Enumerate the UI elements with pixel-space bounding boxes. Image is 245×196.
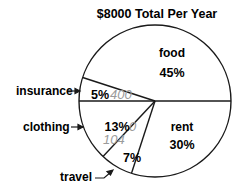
handwritten-note-insurance: 400 bbox=[110, 87, 132, 102]
external-label-travel: travel bbox=[60, 170, 92, 184]
slice-value-travel: 7% bbox=[123, 151, 141, 165]
slice-value-insurance: 5% bbox=[91, 88, 109, 102]
slice-value-rent: 30% bbox=[169, 138, 194, 152]
chart-title: $8000 Total Per Year bbox=[97, 7, 218, 21]
external-label-insurance: insurance bbox=[16, 84, 73, 98]
external-label-clothing: clothing bbox=[23, 120, 70, 134]
slice-label-food: food bbox=[159, 46, 185, 60]
handwritten-note-clothing-a: 0 bbox=[129, 119, 137, 134]
arrow-travel-icon bbox=[95, 170, 113, 178]
handwritten-note-clothing-b: 104 bbox=[103, 132, 125, 147]
pie-chart: $8000 Total Per Year food 45% rent 30% 7… bbox=[0, 0, 245, 196]
slice-label-rent: rent bbox=[171, 120, 194, 134]
arrow-clothing-icon bbox=[71, 125, 83, 130]
slice-value-food: 45% bbox=[159, 66, 184, 80]
